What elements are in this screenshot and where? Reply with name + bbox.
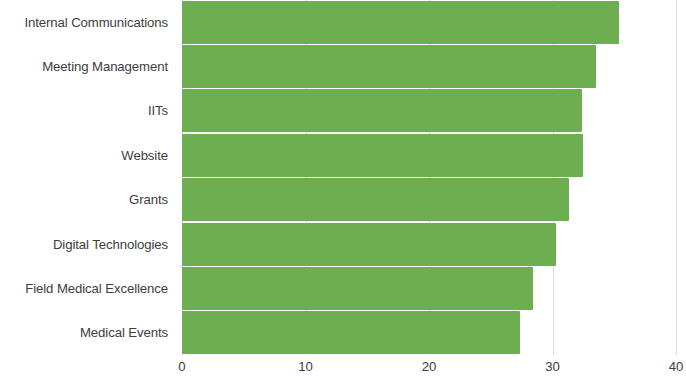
category-label: Meeting Management [0,44,176,88]
category-axis-labels: Internal Communications Meeting Manageme… [0,0,176,355]
x-axis-tick-label: 20 [422,359,437,374]
x-axis: 0 10 20 30 40 [182,355,676,379]
plot-area [182,0,676,355]
bar-row [182,0,676,44]
category-label: Website [0,133,176,177]
x-axis-tick-label: 30 [545,359,560,374]
bar [182,45,596,88]
category-label: IITs [0,89,176,133]
x-axis-tick-label: 10 [298,359,313,374]
category-label: Digital Technologies [0,222,176,266]
bar-row [182,133,676,177]
bar [182,223,556,266]
category-label: Field Medical Excellence [0,266,176,310]
bar-series [182,0,676,355]
bar-row [182,222,676,266]
x-axis-tick-label: 40 [669,359,684,374]
bar [182,89,582,132]
category-label: Internal Communications [0,0,176,44]
bar [182,178,569,221]
bar-row [182,266,676,310]
bar-chart: Internal Communications Meeting Manageme… [0,0,686,379]
bar [182,1,619,44]
x-axis-tick-label: 0 [178,359,185,374]
bar [182,134,583,177]
bar [182,311,520,354]
bar-row [182,89,676,133]
category-label: Grants [0,178,176,222]
bar-row [182,178,676,222]
category-label: Medical Events [0,311,176,355]
bar [182,267,533,310]
bar-row [182,311,676,355]
gridline [676,0,677,355]
bar-row [182,44,676,88]
